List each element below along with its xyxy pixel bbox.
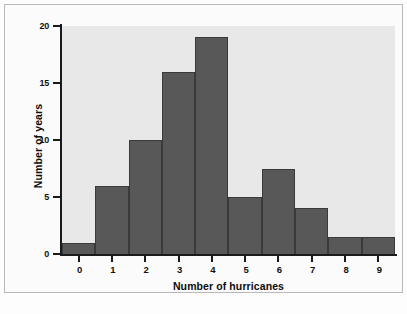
x-axis-tick — [277, 256, 279, 262]
x-axis-tick — [144, 256, 146, 262]
bar — [195, 37, 228, 254]
y-axis-tick-label: 0 — [44, 249, 49, 259]
bar — [95, 186, 128, 254]
bar — [162, 72, 195, 254]
bar — [228, 197, 261, 254]
x-axis-tick-label: 9 — [369, 264, 389, 275]
bar-series — [62, 26, 395, 254]
x-axis-tick-label: 2 — [136, 264, 156, 275]
x-axis-title: Number of hurricanes — [62, 280, 395, 292]
bar — [129, 140, 162, 254]
x-axis-tick — [244, 256, 246, 262]
x-axis-tick — [344, 256, 346, 262]
figure-frame: 05101520 0123456789 Number of hurricanes… — [4, 4, 403, 293]
y-axis-title: Number of years — [32, 66, 44, 226]
plot-area — [62, 26, 395, 254]
x-axis-tick-label: 4 — [203, 264, 223, 275]
y-axis-tick: 15 — [53, 82, 60, 84]
bar — [362, 237, 395, 254]
x-axis-tick-label: 3 — [170, 264, 190, 275]
x-axis-tick-label: 8 — [336, 264, 356, 275]
y-axis-line — [60, 24, 62, 256]
y-axis-tick: 10 — [53, 139, 60, 141]
bar — [62, 243, 95, 254]
bar — [262, 169, 295, 255]
figure: 05101520 0123456789 Number of hurricanes… — [0, 0, 407, 314]
bar — [295, 208, 328, 254]
x-axis-tick — [377, 256, 379, 262]
y-axis-tick: 20 — [53, 25, 60, 27]
x-axis-tick-label: 0 — [70, 264, 90, 275]
x-axis-tick — [111, 256, 113, 262]
x-axis-tick-label: 6 — [269, 264, 289, 275]
x-axis-tick — [178, 256, 180, 262]
y-axis-tick: 0 — [53, 253, 60, 255]
x-axis-tick — [78, 256, 80, 262]
x-axis-tick-label: 5 — [236, 264, 256, 275]
y-axis-tick-label: 20 — [39, 21, 49, 31]
y-axis-tick-label: 5 — [44, 192, 49, 202]
x-axis-tick-label: 7 — [303, 264, 323, 275]
x-axis-tick — [311, 256, 313, 262]
bar — [328, 237, 361, 254]
x-axis-tick-label: 1 — [103, 264, 123, 275]
x-axis-tick — [211, 256, 213, 262]
y-axis-tick: 5 — [53, 196, 60, 198]
